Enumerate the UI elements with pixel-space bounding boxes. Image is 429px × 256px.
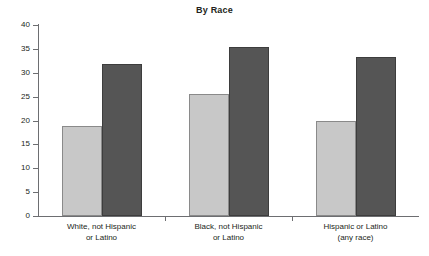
chart-title: By Race [0,5,429,15]
bar-chart: By Race 4035302520151050 White, not Hisp… [0,0,429,256]
y-axis-tick-label: 20 [2,117,30,125]
y-axis-tick [33,216,38,217]
x-axis-line [38,216,419,217]
y-axis-tick-label: 25 [2,93,30,101]
bar-series-2-cat-2 [356,57,396,216]
x-axis-category-label-line: or Latino [165,233,292,244]
bar-series-1-cat-0 [62,126,102,216]
x-axis-category-label-line: Hispanic or Latino [292,222,419,233]
x-axis-category-label-line: Black, not Hispanic [165,222,292,233]
bar-series-2-cat-0 [102,64,142,216]
x-axis-separator-tick [292,217,293,221]
y-axis-tick-label: 40 [2,21,30,29]
y-axis-tick-label: 10 [2,164,30,172]
x-axis-category-label-line: White, not Hispanic [38,222,165,233]
y-axis-tick-label: 15 [2,140,30,148]
x-axis-category-label-line: (any race) [292,233,419,244]
x-axis-category-label: Hispanic or Latino(any race) [292,222,419,243]
y-axis-tick-label: 35 [2,45,30,53]
y-axis-tick-label: 0 [2,212,30,220]
plot-area [38,25,418,216]
y-axis-tick-label: 5 [2,188,30,196]
x-axis-category-label: White, not Hispanicor Latino [38,222,165,243]
bar-series-1-cat-2 [316,121,356,216]
bar-series-1-cat-1 [189,94,229,216]
x-axis-category-label: Black, not Hispanicor Latino [165,222,292,243]
x-axis-separator-tick [165,217,166,221]
bar-series-2-cat-1 [229,47,269,216]
y-axis-tick-label: 30 [2,69,30,77]
x-axis-category-label-line: or Latino [38,233,165,244]
